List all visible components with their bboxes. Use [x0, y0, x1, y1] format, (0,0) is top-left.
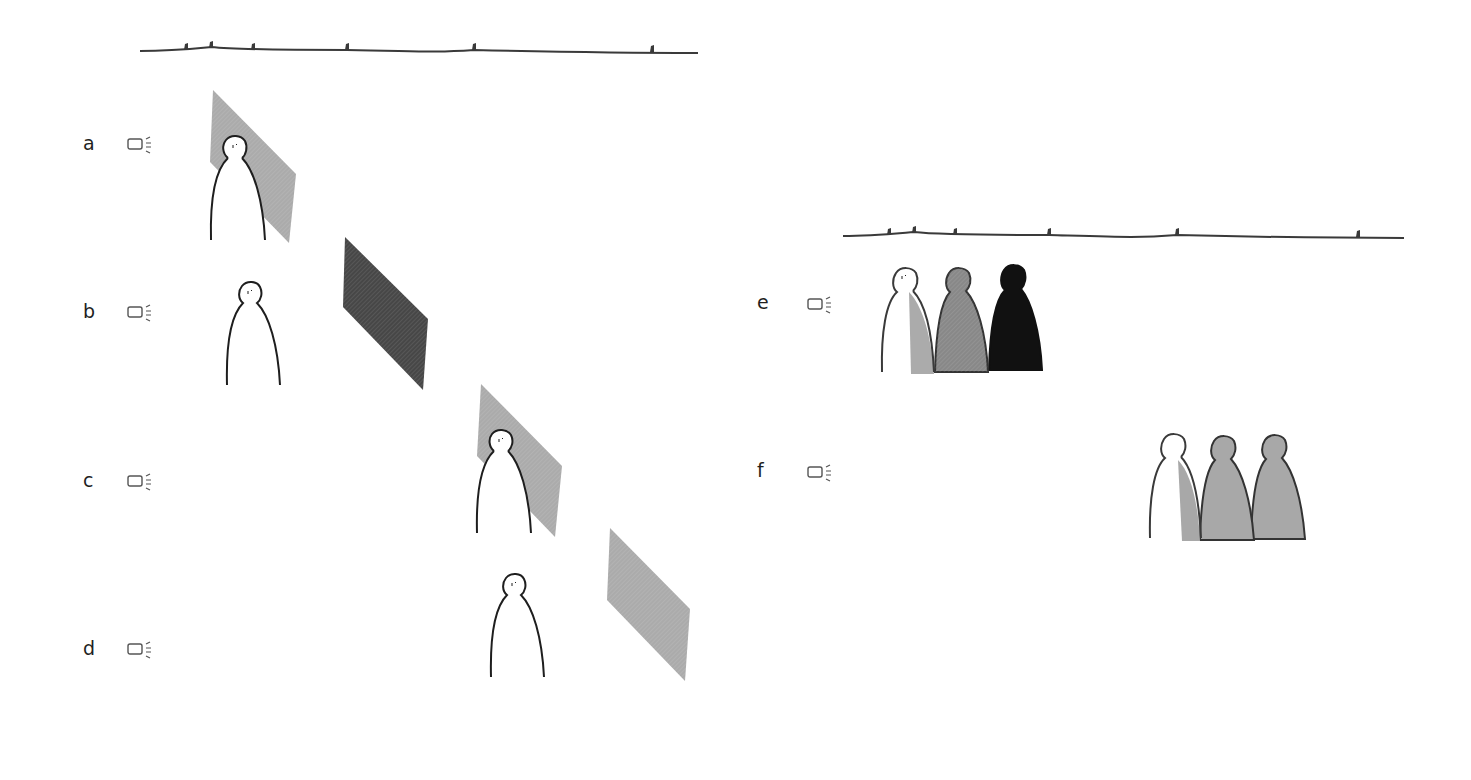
light-source-icon: [808, 297, 831, 313]
light-source-icon: [128, 305, 151, 321]
light-source-icon: [128, 642, 151, 658]
light-source-icon: [808, 465, 831, 481]
light-source-icon: [128, 474, 151, 490]
icon-layer: [0, 0, 1471, 780]
light-source-icon: [128, 137, 151, 153]
